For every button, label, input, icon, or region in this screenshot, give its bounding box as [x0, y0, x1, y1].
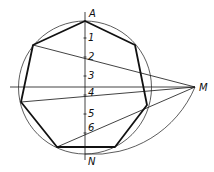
- ray-M-to-lower-left: [57, 87, 195, 147]
- rays-from-M: [21, 45, 195, 147]
- label-N: N: [88, 156, 96, 167]
- arc-N-to-M: [85, 87, 195, 154]
- label-3: 3: [88, 70, 94, 81]
- ray-M-to-left: [21, 87, 195, 102]
- label-2: 2: [88, 51, 94, 62]
- label-1: 1: [88, 32, 94, 43]
- ray-M-to-upper-left: [33, 45, 195, 87]
- label-4: 4: [88, 87, 94, 98]
- label-6: 6: [88, 122, 94, 133]
- label-A: A: [88, 8, 96, 19]
- heptagon: [21, 21, 147, 147]
- heptagon-construction-diagram: A 1 2 3 4 5 6 N M: [0, 0, 214, 172]
- label-M: M: [199, 82, 208, 93]
- label-5: 5: [88, 108, 94, 119]
